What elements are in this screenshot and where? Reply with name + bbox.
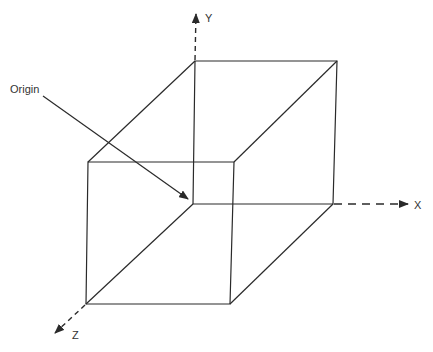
cube-edge-bottom-right [230,204,333,304]
origin-label: Origin [10,83,39,95]
cube-edge-bottom-left [86,204,193,304]
z-axis-label: Z [72,329,79,341]
z-axis-arrow [55,305,85,333]
cube-edge-top-left [88,61,195,162]
x-axis-label: X [414,199,422,211]
cube-edge-top-right [234,61,337,162]
cube [86,61,337,304]
coordinate-cube-diagram: Origin Y X Z [0,0,433,352]
y-axis-arrow [195,14,196,60]
y-axis-label: Y [205,12,213,24]
origin-pointer-arrow [43,96,188,199]
